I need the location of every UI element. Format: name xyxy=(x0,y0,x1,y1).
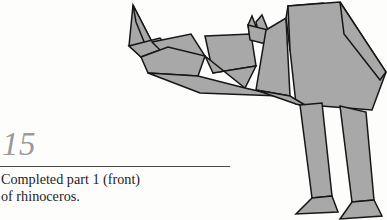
leg-rear xyxy=(340,106,374,202)
caption-block: 15 Completed part 1 (front) of rhinocero… xyxy=(0,128,232,206)
leg-front xyxy=(300,103,332,198)
caption-divider xyxy=(0,166,230,167)
foot-front xyxy=(296,196,338,214)
step-number: 15 xyxy=(0,128,232,161)
caption-text: Completed part 1 (front) of rhinoceros. xyxy=(0,171,232,206)
figure-page: 15 Completed part 1 (front) of rhinocero… xyxy=(0,0,387,220)
foot-rear xyxy=(340,200,382,219)
